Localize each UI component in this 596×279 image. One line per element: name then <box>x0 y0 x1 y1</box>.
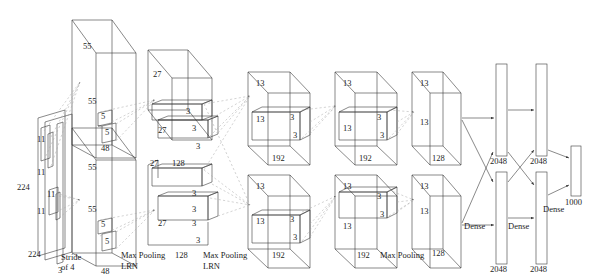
conv4b-front-size-label: 13 <box>343 222 352 232</box>
dense-label-1: Dense <box>464 221 485 231</box>
conv5-top-depth-label: 13 <box>420 79 429 89</box>
pool2-label-line1: Max Pooling <box>203 250 247 260</box>
conv5b-channels-label: 128 <box>432 249 445 259</box>
conv5-channels-label: 128 <box>432 154 445 164</box>
pool2-label-line2: LRN <box>203 261 220 271</box>
conv2b-channels-label: 128 <box>175 251 188 261</box>
conv2-front-size-b-label: 27 <box>150 159 159 169</box>
conv4-front-size-label: 13 <box>343 124 352 134</box>
conv4-kernel-b-label: 3 <box>380 131 384 141</box>
conv1-top-volume <box>72 20 136 158</box>
conv3-front-size-label: 13 <box>256 115 265 125</box>
conv3-top-depth-label: 13 <box>256 79 265 89</box>
conv1-front-size-label: 55 <box>88 97 97 107</box>
output-classes-label: 1000 <box>565 198 582 208</box>
fc7-top-label: 2048 <box>530 157 547 167</box>
input-height-label: 224 <box>17 183 30 193</box>
conv5b-top-depth-label: 13 <box>420 182 429 192</box>
conv1b-kernel-w-label: 5 <box>101 220 105 230</box>
conv4b-top-depth-label: 13 <box>343 182 352 192</box>
conv2-channels-label: 128 <box>172 159 185 169</box>
pool5-label: Max Pooling <box>380 250 424 260</box>
dense-label-3: Dense <box>543 204 564 214</box>
conv1b-front-size-label: 55 <box>88 205 97 215</box>
conv3b-kernel-b-label: 3 <box>293 233 297 243</box>
kernel-11-c-label: 11 <box>47 190 55 200</box>
fc6-bottom-label: 2048 <box>490 265 507 275</box>
conv2-kernel-b-label: 3 <box>192 124 196 134</box>
conv3b-top-depth-label: 13 <box>256 182 265 192</box>
conv3b-kernel-a-label: 3 <box>290 215 294 225</box>
conv1-kernel-w-label: 5 <box>101 112 105 122</box>
conv1-channels-label: 48 <box>101 144 110 154</box>
conv5b-front-size-label: 13 <box>420 207 429 217</box>
dense-label-2: Dense <box>508 221 529 231</box>
kernel-11-d-label: 11 <box>37 207 45 217</box>
conv2b-kernel-a-label: 3 <box>192 189 196 199</box>
kernel-11-a-label: 11 <box>37 135 45 145</box>
fc7-bottom-label: 2048 <box>530 265 547 275</box>
conv4-channels-label: 192 <box>359 154 372 164</box>
conv3b-front-size-label: 13 <box>256 217 265 227</box>
conv4-kernel-a-label: 3 <box>377 113 381 123</box>
conv3b-channels-label: 192 <box>272 251 285 261</box>
conv5-front-size-label: 13 <box>420 118 429 128</box>
conv1-kernel-h-label: 5 <box>105 128 109 138</box>
conv2-front-size-label: 27 <box>158 126 167 136</box>
conv4b-kernel-b-label: 3 <box>380 210 384 220</box>
conv4-top-depth-label: 13 <box>343 79 352 89</box>
conv4b-channels-label: 192 <box>357 251 370 261</box>
stride-label-line1: Stride <box>61 252 81 262</box>
conv2-top-depth-label: 27 <box>153 70 162 80</box>
conv2b-front-size-label: 27 <box>158 219 167 229</box>
input-width-label: 224 <box>28 250 41 260</box>
alexnet-architecture-figure: 224 224 3 11 11 11 11 Stride of 4 55 55 … <box>0 0 596 279</box>
conv3-kernel-b-label: 3 <box>293 131 297 141</box>
conv2-kernel-c-label: 3 <box>196 142 200 152</box>
stride-label-line2: of 4 <box>61 262 74 272</box>
conv1b-kernel-h-label: 5 <box>105 237 109 247</box>
conv2-kernel-a-label: 3 <box>186 107 190 117</box>
conv2b-kernel-b-label: 3 <box>192 205 196 215</box>
conv3-channels-label: 192 <box>272 154 285 164</box>
pool1-label-line1: Max Pooling <box>121 250 165 260</box>
conv2b-kernel-c-label: 3 <box>192 219 196 229</box>
pool1-label-line2: LRN <box>121 261 138 271</box>
conv4b-kernel-a-label: 3 <box>377 192 381 202</box>
conv3-kernel-a-label: 3 <box>290 113 294 123</box>
fc6-top-label: 2048 <box>490 157 507 167</box>
conv1b-top-depth-label: 55 <box>88 163 97 173</box>
kernel-11-b-label: 11 <box>37 168 45 178</box>
conv1b-channels-label: 48 <box>101 267 110 277</box>
conv2b-kernel-d-label: 3 <box>196 236 200 246</box>
conv1-top-depth-label: 55 <box>83 42 92 52</box>
